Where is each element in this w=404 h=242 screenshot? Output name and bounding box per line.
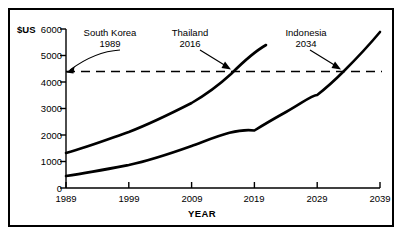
series-line-thailand bbox=[66, 45, 266, 153]
arrow-line-south-korea bbox=[70, 50, 120, 70]
arrow-head-south-korea bbox=[66, 67, 75, 74]
arrow-head-thailand bbox=[222, 62, 232, 70]
y-axis-ticks bbox=[60, 29, 66, 188]
axis-lines bbox=[66, 29, 380, 188]
chart-figure: $US 6000 5000 4000 3000 2000 1000 0 1989… bbox=[0, 0, 404, 242]
arrow-line-indonesia bbox=[310, 50, 336, 66]
arrow-line-thailand bbox=[200, 50, 226, 66]
chart-plot-area bbox=[0, 0, 404, 242]
x-axis-ticks bbox=[66, 182, 380, 188]
series-line-indonesia bbox=[66, 32, 380, 176]
arrow-head-indonesia bbox=[332, 62, 342, 70]
